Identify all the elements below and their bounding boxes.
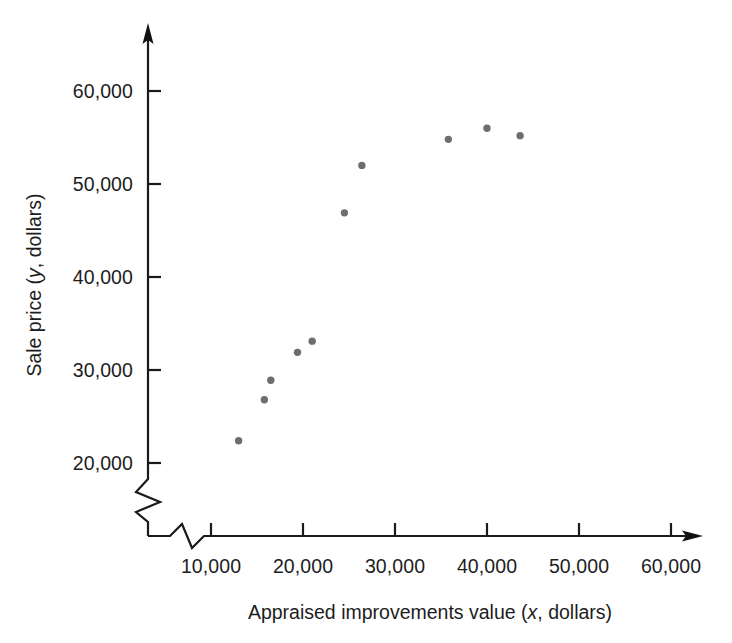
y-axis-tick-labels: 60,000 50,000 40,000 30,000 20,000	[73, 80, 133, 474]
chart-canvas: 60,000 50,000 40,000 30,000 20,000 10,00…	[0, 0, 732, 643]
y-axis-title: Sale price (y, dollars)	[23, 193, 45, 376]
data-point	[294, 349, 301, 356]
data-point	[309, 337, 316, 344]
x-tick-label-30000: 30,000	[365, 555, 425, 577]
y-tick-label-50000: 50,000	[73, 173, 133, 195]
x-tick-label-10000: 10,000	[181, 555, 241, 577]
y-tick-label-40000: 40,000	[73, 266, 133, 288]
y-axis-ticks	[148, 91, 161, 463]
x-axis-line	[148, 524, 692, 548]
data-point	[261, 396, 268, 403]
data-point	[445, 136, 452, 143]
x-tick-label-40000: 40,000	[457, 555, 517, 577]
data-point	[235, 437, 242, 444]
data-point	[516, 132, 523, 139]
data-point	[267, 377, 274, 384]
y-axis-title-before: Sale price (	[23, 277, 45, 376]
x-axis-tick-labels: 10,000 20,000 30,000 40,000 50,000 60,00…	[181, 555, 701, 577]
x-axis-title: Appraised improvements value (x, dollars…	[248, 601, 612, 623]
y-axis-title-after: , dollars)	[23, 193, 45, 268]
y-tick-label-20000: 20,000	[73, 452, 133, 474]
y-axis-break-icon	[136, 472, 160, 536]
x-tick-label-20000: 20,000	[273, 555, 333, 577]
scatter-plot-figure: 60,000 50,000 40,000 30,000 20,000 10,00…	[0, 0, 732, 643]
y-tick-label-30000: 30,000	[73, 359, 133, 381]
data-point	[358, 162, 365, 169]
x-tick-label-60000: 60,000	[641, 555, 701, 577]
y-tick-label-60000: 60,000	[73, 80, 133, 102]
data-points-layer	[235, 125, 524, 445]
x-axis-title-before: Appraised improvements value (	[248, 601, 528, 623]
data-point	[341, 209, 348, 216]
data-point	[483, 125, 490, 132]
x-tick-label-50000: 50,000	[549, 555, 609, 577]
x-axis-title-after: , dollars)	[537, 601, 612, 623]
x-axis-ticks	[211, 523, 671, 536]
